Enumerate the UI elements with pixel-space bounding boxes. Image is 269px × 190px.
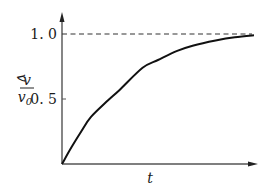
x-axis-arrow-icon <box>248 162 258 167</box>
y-tick-label-1: 1. 0 <box>30 26 57 42</box>
velocity-curve <box>62 35 254 164</box>
y-axis-arrow-icon <box>60 12 65 22</box>
y-tick-label-05: 0. 5 <box>30 91 57 107</box>
y-label-num: v <box>23 72 31 88</box>
x-axis-label: t <box>147 170 153 186</box>
chart-canvas: 1. 0 0. 5 t v v v0 <box>0 0 269 190</box>
